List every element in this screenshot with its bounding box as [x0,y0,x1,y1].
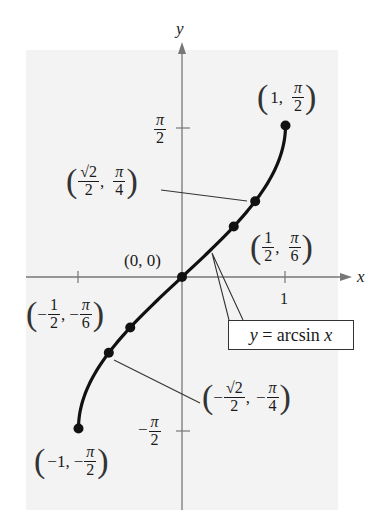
data-point [125,323,135,333]
label-point-half-pi6: (12,π6) [250,230,313,265]
y-tick-label-neg-pi-half: −π2 [138,414,162,449]
callout-pointer [212,253,243,320]
label-origin: (0, 0) [124,252,161,269]
leader-sqrt2-pi4 [161,190,247,201]
x-axis-label: x [357,268,365,285]
function-callout-box: y = arcsin x [228,320,354,350]
data-point [104,348,114,358]
y-tick-label-pi-half: π2 [153,112,167,147]
x-axis-arrow-icon [340,273,352,281]
label-point-sqrt2-pi4: (√22,π4) [66,164,138,199]
x-tick-label-1: 1 [280,291,288,307]
label-point-1-pi2: (1,π2) [257,80,316,115]
data-point [177,272,187,282]
plot-svg [0,0,388,514]
data-point [74,424,84,434]
leader-neg-sqrt2-pi4 [114,360,200,403]
y-axis-arrow-icon [178,42,186,54]
label-point-neg-sqrt2-neg-pi4: (−√22,−π4) [202,380,291,415]
data-point [229,221,239,231]
data-point [250,196,260,206]
label-point-neg-half-neg-pi6: (−12,−π6) [26,297,104,332]
data-point [281,120,291,130]
y-axis-label: y [176,20,184,37]
label-point-neg1-neg-pi2: (−1,−π2) [34,444,109,479]
